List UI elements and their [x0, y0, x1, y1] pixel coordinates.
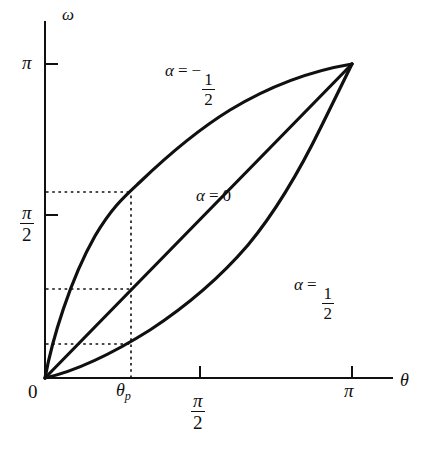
alpha-zero-value: 0: [223, 186, 232, 205]
x-axis-label: θ: [400, 371, 409, 389]
y-tick-label-pi: π: [22, 53, 32, 72]
equals-sign-pos-half: =: [307, 275, 317, 294]
alpha-pos-half-numerator: 1: [322, 285, 335, 304]
equals-sign-neg-half: =: [178, 61, 188, 80]
curve-annotation-alpha-neg-half: α=− 1 2: [165, 62, 216, 108]
x-tick-label-origin: 0: [28, 382, 38, 401]
x-tick-label-theta-p: θp: [116, 381, 131, 402]
y-axis-label: ω: [62, 6, 74, 23]
alpha-pos-half-denominator: 2: [322, 304, 335, 322]
curve-annotation-alpha-pos-half: α= 1 2: [294, 276, 335, 322]
alpha-symbol-neg-half: α: [165, 61, 174, 80]
x-tick-label-pi-over-2: π 2: [190, 381, 206, 433]
curve-alpha-zero: [45, 64, 352, 378]
alpha-neg-half-denominator: 2: [202, 90, 215, 108]
alpha-symbol-pos-half: α: [294, 275, 303, 294]
y-tick-pi-over-2-denominator: 2: [20, 224, 34, 244]
theta-p-subscript: p: [125, 389, 131, 403]
x-axis-ticks: [200, 366, 352, 378]
phase-response-figure: ω θ π π 2 0 θp π 2 π α=− 1 2 α=0 α= 1 2: [0, 0, 432, 451]
plot-canvas: [0, 0, 432, 451]
x-tick-pi-over-2-numerator: π: [191, 391, 205, 412]
equals-sign-zero: =: [209, 186, 219, 205]
y-tick-label-pi-over-2: π 2: [19, 193, 35, 245]
alpha-symbol-zero: α: [196, 186, 205, 205]
x-tick-label-pi: π: [344, 381, 354, 400]
y-tick-pi-over-2-numerator: π: [20, 203, 34, 224]
curves: [45, 64, 352, 378]
minus-sign-neg-half: −: [192, 61, 202, 80]
x-tick-pi-over-2-denominator: 2: [191, 412, 205, 432]
theta-p-base: θ: [116, 380, 125, 400]
curve-annotation-alpha-zero: α=0: [196, 187, 231, 204]
alpha-neg-half-numerator: 1: [202, 71, 215, 90]
